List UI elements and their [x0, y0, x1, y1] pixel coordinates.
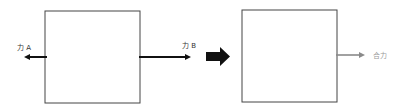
- object-box-before: [45, 11, 140, 103]
- transition-arrow-icon: [206, 47, 230, 66]
- force-a-label: 力 A: [17, 43, 31, 52]
- resultant-force-label: 合力: [373, 51, 387, 60]
- force-diagram: 力 A 力 B 合力: [0, 0, 405, 110]
- force-b-label: 力 B: [182, 41, 196, 50]
- object-box-after: [242, 10, 337, 102]
